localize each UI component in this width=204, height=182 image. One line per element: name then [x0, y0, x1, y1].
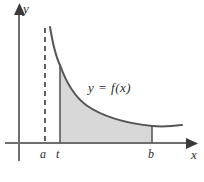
tick-label-t: t	[56, 148, 59, 160]
x-axis-label: x	[191, 148, 197, 161]
curve-equation-label: y = f(x)	[88, 80, 131, 96]
shaded-area-under-curve	[60, 65, 152, 143]
tick-label-b: b	[148, 148, 154, 160]
y-axis-label: y	[23, 2, 29, 15]
tick-label-a: a	[40, 148, 46, 160]
figure-canvas: y x a t b y = f(x)	[0, 0, 204, 182]
